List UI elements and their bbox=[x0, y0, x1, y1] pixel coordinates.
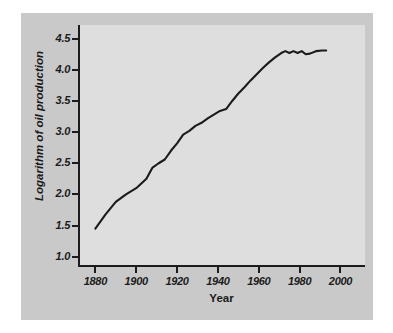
x-tick-mark bbox=[94, 267, 96, 273]
x-tick-mark bbox=[339, 267, 341, 273]
y-tick-mark bbox=[72, 131, 78, 133]
y-tick-mark bbox=[72, 193, 78, 195]
x-tick-mark bbox=[299, 267, 301, 273]
y-tick-mark bbox=[72, 225, 78, 227]
y-tick-label-wrap: 1.0 bbox=[30, 250, 70, 262]
x-axis-label: Year bbox=[78, 292, 365, 304]
x-tick-mark bbox=[176, 267, 178, 273]
y-tick-mark bbox=[72, 38, 78, 40]
x-axis-line bbox=[78, 265, 365, 267]
x-tick-label-wrap: 2000 bbox=[316, 275, 364, 289]
y-tick-mark bbox=[72, 69, 78, 71]
plot-panel bbox=[78, 25, 365, 265]
y-tick-mark bbox=[72, 256, 78, 258]
chart-page: 1.01.52.02.53.03.54.04.5 188019001920194… bbox=[0, 0, 393, 333]
y-tick-mark bbox=[72, 100, 78, 102]
x-tick-mark bbox=[135, 267, 137, 273]
y-axis-label: Logarithm of oil production bbox=[33, 6, 45, 246]
x-tick-mark bbox=[258, 267, 260, 273]
x-tick-mark bbox=[217, 267, 219, 273]
y-tick-mark bbox=[72, 162, 78, 164]
y-tick-label: 1.0 bbox=[36, 250, 70, 262]
x-tick-label: 2000 bbox=[316, 275, 364, 287]
y-axis-line bbox=[78, 25, 80, 267]
